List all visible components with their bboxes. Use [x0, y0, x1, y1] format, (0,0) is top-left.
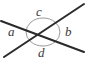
angle-label-b: b: [65, 25, 72, 38]
angle-label-d: d: [38, 46, 45, 59]
angle-label-c: c: [36, 5, 42, 18]
geometry-figure: a b c d: [0, 0, 87, 65]
angle-label-a: a: [8, 25, 15, 38]
